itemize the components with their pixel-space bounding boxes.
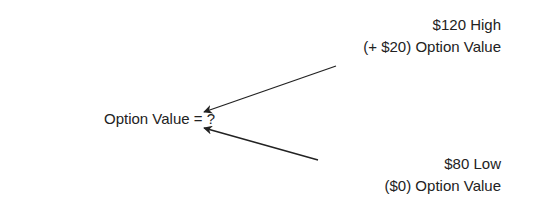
arrows bbox=[0, 0, 535, 210]
arrow-from-low-icon bbox=[204, 128, 318, 160]
arrow-from-high-icon bbox=[204, 66, 336, 112]
